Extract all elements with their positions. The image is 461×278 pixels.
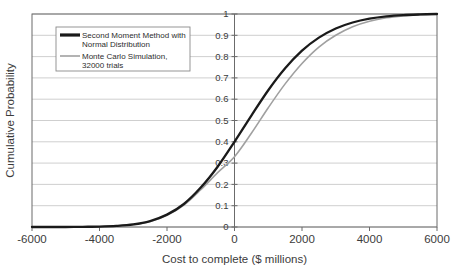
x-tick-label-1: -4000 [85,233,114,245]
x-tick-label-3: 0 [231,233,237,245]
legend-label-0-line2: Normal Distribution [82,40,150,49]
cumulative-probability-chart: 00.10.20.30.40.50.60.70.80.91-6000-4000-… [0,0,461,278]
y-tick-label-0: 0 [223,221,228,232]
x-tick-label-0: -6000 [17,233,46,245]
x-tick-label-4: 2000 [289,233,315,245]
y-tick-label-10: 1 [223,8,228,19]
x-tick-label-5: 4000 [357,233,383,245]
y-tick-label-5: 0.5 [215,115,228,126]
y-tick-label-2: 0.2 [215,179,228,190]
y-tick-label-9: 0.9 [215,30,228,41]
x-tick-label-2: -2000 [152,233,181,245]
y-tick-label-6: 0.6 [215,93,228,104]
chart-figure: 00.10.20.30.40.50.60.70.80.91-6000-4000-… [0,0,461,278]
y-tick-label-8: 0.8 [215,51,228,62]
y-tick-label-4: 0.4 [215,136,228,147]
legend-label-0-line1: Second Moment Method with [82,31,186,40]
y-axis-title: Cumulative Probability [4,63,16,178]
legend-label-1-line2: 32000 trials [82,61,123,70]
x-axis-title: Cost to complete ($ millions) [162,253,307,265]
legend-label-1-line1: Monte Carlo Simulation, [82,52,167,61]
x-tick-label-6: 6000 [424,233,450,245]
y-tick-label-7: 0.7 [215,72,228,83]
y-tick-label-1: 0.1 [215,200,228,211]
